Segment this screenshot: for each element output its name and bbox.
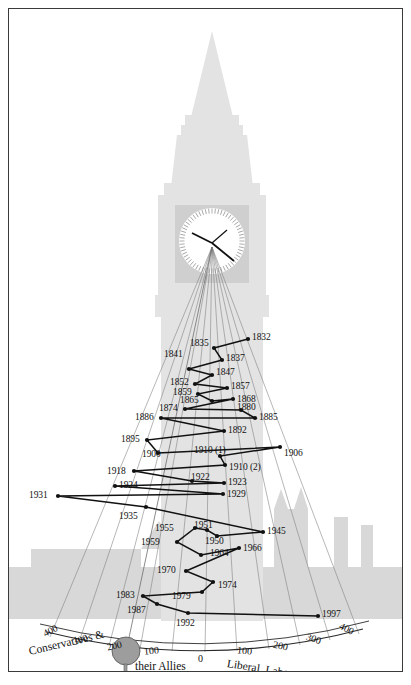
data-label-1992: 1992 — [176, 619, 195, 629]
data-label-1886: 1886 — [135, 413, 154, 423]
data-label-1929: 1929 — [227, 490, 246, 500]
data-label-1959: 1959 — [141, 538, 160, 548]
clock-face — [179, 208, 245, 274]
data-label-1832: 1832 — [252, 333, 271, 343]
data-label-1983: 1983 — [116, 591, 135, 601]
data-label-1835: 1835 — [190, 339, 209, 349]
data-label-1987: 1987 — [127, 606, 146, 616]
data-label-1923: 1923 — [228, 478, 247, 488]
data-label-1964: 1964 — [210, 549, 229, 559]
data-label-1951: 1951 — [194, 521, 213, 531]
data-label-1955: 1955 — [155, 524, 174, 534]
data-label-1922: 1922 — [191, 473, 210, 483]
data-label-1895: 1895 — [121, 435, 140, 445]
data-label-1906: 1906 — [284, 449, 303, 459]
data-label-1841: 1841 — [164, 350, 183, 360]
data-label-1970: 1970 — [157, 566, 176, 576]
data-label-1950: 1950 — [205, 537, 224, 547]
data-label-1857: 1857 — [231, 382, 250, 392]
data-label-1900: 1900 — [142, 450, 161, 460]
data-label-1966: 1966 — [243, 544, 262, 554]
data-label-1865: 1865 — [180, 396, 199, 406]
data-label-1935: 1935 — [119, 512, 138, 522]
axis-tick-center-0: 0 — [198, 654, 203, 664]
data-label-1997: 1997 — [322, 610, 341, 620]
data-label-1837: 1837 — [226, 354, 245, 364]
data-label-1892: 1892 — [228, 426, 247, 436]
axis-tick-right-100: 100 — [237, 645, 253, 657]
data-label-1874: 1874 — [159, 404, 178, 414]
data-label-1974: 1974 — [218, 581, 237, 591]
data-label-1918: 1918 — [107, 467, 126, 477]
axis-tick-left-100: 100 — [144, 645, 160, 657]
figure-plate: 1832 1835 1837 1841 1847 1852 1857 1859 … — [8, 8, 403, 672]
axis-caption-conservatives-2: their Allies — [135, 661, 186, 672]
data-label-1945: 1945 — [267, 527, 286, 537]
data-label-1847: 1847 — [216, 368, 235, 378]
data-label-1910-2: 1910 (2) — [229, 463, 261, 473]
data-label-1880: 1880 — [237, 403, 256, 413]
data-label-1910-1: 1910 (1) — [194, 446, 226, 456]
figure-frame: 1832 1835 1837 1841 1847 1852 1857 1859 … — [0, 0, 411, 685]
data-label-1885: 1885 — [259, 413, 278, 423]
data-label-1924: 1924 — [119, 481, 138, 491]
data-label-1931: 1931 — [29, 491, 48, 501]
data-label-1979: 1979 — [172, 592, 191, 602]
